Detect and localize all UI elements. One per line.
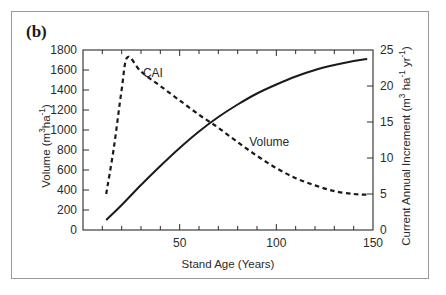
y-axis-left-title: Volume (m3ha-1) <box>40 56 52 236</box>
chart-plot-area: 5010015002004006008001000120014001600180… <box>0 0 446 295</box>
y-tick-label-right: 5 <box>380 187 387 201</box>
tick-marks-group <box>83 50 373 230</box>
y-tick-label-right: 10 <box>380 151 394 165</box>
y-tick-label-right: 20 <box>380 79 394 93</box>
x-tick-label: 150 <box>363 236 383 250</box>
y-tick-label-right: 25 <box>380 43 394 57</box>
x-tick-label: 50 <box>173 236 187 250</box>
y-tick-label-left: 0 <box>70 223 77 237</box>
plot-frame <box>83 50 373 230</box>
y-tick-label-left: 600 <box>57 163 77 177</box>
y-tick-label-left: 200 <box>57 203 77 217</box>
data-series-group <box>106 57 367 220</box>
y-tick-label-left: 1000 <box>50 123 77 137</box>
axes-group <box>83 50 373 230</box>
y-tick-label-left: 800 <box>57 143 77 157</box>
y-axis-right-title-text: Current Annual Increment (m3 ha-1 yr-1) <box>400 46 412 246</box>
y-tick-label-left: 400 <box>57 183 77 197</box>
chart-page: (b) 501001500200400600800100012001400160… <box>0 0 446 295</box>
y-axis-right-title: Current Annual Increment (m3 ha-1 yr-1) <box>400 46 412 246</box>
y-axis-left-title-text: Volume (m3ha-1) <box>40 104 52 188</box>
series-label-volume: Volume <box>249 135 289 149</box>
series-annotations-group: CAIVolume <box>143 66 290 149</box>
x-axis-title: Stand Age (Years) <box>83 258 373 270</box>
y-tick-label-right: 0 <box>380 223 387 237</box>
y-tick-label-left: 1600 <box>50 63 77 77</box>
y-tick-label-left: 1400 <box>50 83 77 97</box>
series-label-cai: CAI <box>143 66 163 80</box>
y-tick-label-right: 15 <box>380 115 394 129</box>
x-tick-label: 100 <box>266 236 286 250</box>
tick-labels-group: 5010015002004006008001000120014001600180… <box>50 43 393 250</box>
y-tick-label-left: 1800 <box>50 43 77 57</box>
y-tick-label-left: 1200 <box>50 103 77 117</box>
series-line-volume <box>106 59 367 220</box>
